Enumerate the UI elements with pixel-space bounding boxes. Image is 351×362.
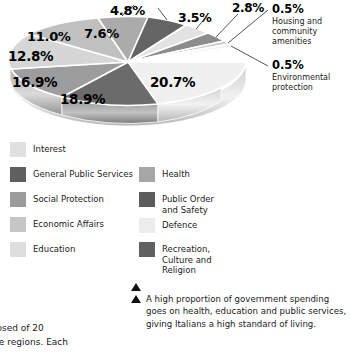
pie-label-7-6: 7.6% — [84, 27, 119, 40]
legend-item-general-public-services: General Public Services — [10, 167, 133, 182]
legend-label-health: Health — [162, 167, 190, 180]
legend-label-recreation-culture-religion: Recreation, Culture and Religion — [162, 242, 212, 276]
legend-item-recreation-culture-religion: Recreation, Culture and Religion — [139, 242, 212, 276]
callout-housing-label: Housing and community amenities — [272, 17, 322, 46]
legend-swatch-general-public-services — [10, 167, 26, 182]
legend-swatch-interest — [10, 142, 26, 157]
legend-swatch-public-order-and-safety — [139, 192, 155, 207]
legend-label-interest: Interest — [33, 142, 66, 155]
chart-legend: Interest General Public Services Social … — [0, 138, 351, 278]
pie-label-11-0: 11.0% — [27, 30, 71, 43]
pie-label-18-9: 18.9% — [60, 93, 105, 107]
legend-label-general-public-services: General Public Services — [33, 167, 133, 180]
callout-environmental-percent: 0.5% — [272, 60, 304, 72]
legend-item-interest: Interest — [10, 142, 66, 157]
footnote-block: A high proportion of government spending… — [131, 283, 347, 330]
pie-label-2-8: 2.8% — [232, 2, 264, 14]
pie-label-3-5: 3.5% — [178, 12, 211, 25]
pie-label-4-8: 4.8% — [110, 4, 145, 17]
legend-swatch-education — [10, 242, 26, 257]
body-copy-text: mposed of 20 ative regions. Each — [0, 322, 142, 350]
triangle-up-icon — [131, 283, 141, 291]
legend-item-defence: Defence — [139, 218, 197, 233]
pie-chart-figure: 4.8% 3.5% 2.8% 7.6% 11.0% 12.8% 16.9% 18… — [0, 0, 351, 140]
pie-label-20-7: 20.7% — [150, 76, 195, 90]
legend-label-economic-affairs: Economic Affairs — [33, 217, 104, 230]
footnote-text: A high proportion of government spending… — [146, 293, 347, 330]
triangle-up-icon-inline — [131, 295, 141, 303]
callout-housing-percent: 0.5% — [272, 4, 304, 16]
callout-environmental-label: Environmental protection — [272, 73, 330, 93]
legend-item-public-order-and-safety: Public Order and Safety — [139, 192, 214, 215]
pie-label-12-8: 12.8% — [8, 50, 53, 64]
legend-label-public-order-and-safety: Public Order and Safety — [162, 192, 214, 215]
legend-label-social-protection: Social Protection — [33, 192, 104, 205]
legend-swatch-economic-affairs — [10, 217, 26, 232]
legend-swatch-social-protection — [10, 192, 26, 207]
legend-item-health: Health — [139, 167, 190, 182]
legend-swatch-health — [139, 167, 155, 182]
legend-label-defence: Defence — [162, 218, 197, 231]
legend-swatch-defence — [139, 218, 155, 233]
legend-item-education: Education — [10, 242, 75, 257]
legend-item-social-protection: Social Protection — [10, 192, 104, 207]
legend-item-economic-affairs: Economic Affairs — [10, 217, 104, 232]
pie-label-16-9: 16.9% — [12, 76, 57, 90]
legend-swatch-recreation-culture-religion — [139, 242, 155, 257]
legend-label-education: Education — [33, 242, 75, 255]
